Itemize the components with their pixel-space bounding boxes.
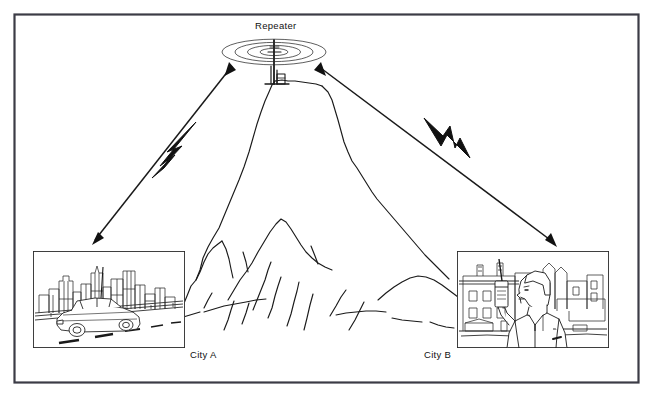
diagram-artwork bbox=[0, 0, 652, 397]
city-b-label: City B bbox=[424, 349, 451, 360]
panel-city-a bbox=[33, 251, 185, 348]
antenna-tower-icon bbox=[265, 40, 289, 84]
repeater-label: Repeater bbox=[255, 20, 296, 31]
diagram-canvas: Repeater City A City B bbox=[0, 0, 652, 397]
link-city-a-to-repeater bbox=[92, 62, 236, 245]
link-repeater-to-city-b bbox=[314, 62, 557, 247]
panel-city-b bbox=[457, 251, 609, 348]
mountain-icon bbox=[160, 80, 458, 332]
city-a-label: City A bbox=[190, 349, 217, 360]
lightning-bolt-icon bbox=[152, 122, 196, 178]
lightning-bolt-icon-b bbox=[424, 118, 470, 158]
